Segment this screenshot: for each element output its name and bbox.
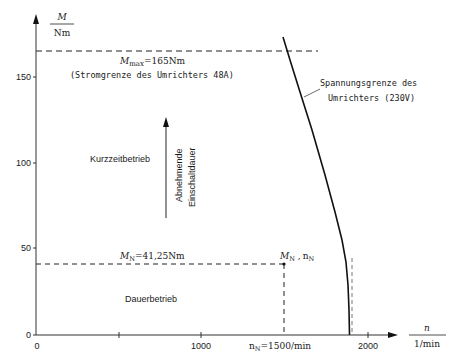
x-tick-1000: 1000 [191, 341, 211, 351]
torque-speed-chart: 0 50 100 150 0 1000 2000 M Nm n 1/min Mm… [0, 0, 459, 362]
abnehmende-label: Abnehmende [174, 148, 184, 202]
spannung-label-1: Spannungsgrenze des [320, 78, 417, 88]
y-axis-label-den: Nm [54, 28, 71, 38]
y-tick-100: 100 [16, 158, 31, 168]
kurzzeit-label: Kurzzeitbetrieb [90, 154, 150, 164]
spannung-label-2: Umrichters (230V) [328, 93, 415, 103]
nn-label: nN=1500/min [249, 341, 311, 353]
leader-line [304, 89, 320, 97]
x-axis-label-num: n [424, 323, 430, 333]
x-axis-label-den: 1/min [414, 339, 440, 349]
x-axis-arrow-icon [388, 332, 398, 338]
x-tick-0: 0 [34, 341, 39, 351]
rated-point-label: MN ,nN [279, 251, 314, 263]
y-tick-0: 0 [26, 330, 31, 340]
arrow-up-icon [163, 117, 169, 127]
einschalt-label: Einschaltdauer [187, 147, 197, 207]
rated-point [282, 262, 285, 265]
x-tick-2000: 2000 [358, 341, 378, 351]
mmax-label: Mmax=165Nm [119, 56, 186, 68]
dauer-label: Dauerbetrieb [125, 294, 177, 304]
y-axis-arrow-icon [33, 14, 39, 24]
mn-label: MN=41,25Nm [119, 251, 185, 263]
stromgrenze-label: (Stromgrenze des Umrichters 48A) [70, 70, 234, 80]
y-tick-50: 50 [21, 243, 31, 253]
y-tick-150: 150 [16, 72, 31, 82]
y-axis-label-num: M [56, 12, 67, 22]
